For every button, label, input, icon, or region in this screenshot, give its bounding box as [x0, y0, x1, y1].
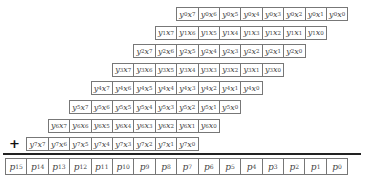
partial-product-cell: y0x2: [283, 7, 305, 21]
partial-product-cell: y1x1: [283, 26, 305, 40]
partial-product-cell: y5x3: [155, 100, 177, 114]
partial-product-cell: y6x7: [48, 119, 70, 133]
partial-product-cell: y6x6: [69, 119, 91, 133]
partial-product-cell: y4x7: [91, 81, 113, 95]
partial-product-cell: y4x1: [219, 81, 241, 95]
partial-product-row: y2x7y2x6y2x5y2x4y2x3y2x2y2x1y2x0: [133, 44, 304, 58]
partial-product-row: y3x7y3x6y3x5y3x4y3x3y3x2y3x1y3x0: [112, 63, 283, 77]
partial-product-cell: y6x1: [176, 119, 198, 133]
partial-product-cell: y4x5: [133, 81, 155, 95]
partial-product-cell: y2x1: [262, 44, 284, 58]
partial-product-cell: y0x5: [219, 7, 241, 21]
partial-product-cell: y3x7: [112, 63, 134, 77]
partial-product-cell: y0x3: [262, 7, 284, 21]
partial-product-cell: y2x0: [283, 44, 305, 58]
partial-product-cell: y4x4: [155, 81, 177, 95]
product-bit-cell: p13: [48, 158, 70, 175]
product-bit-cell: p14: [26, 158, 48, 175]
partial-product-cell: y3x3: [198, 63, 220, 77]
partial-product-cell: y7x3: [112, 137, 134, 151]
partial-product-cell: y1x3: [240, 26, 262, 40]
product-bit-cell: p9: [133, 158, 155, 175]
product-bit-cell: p3: [262, 158, 284, 175]
product-bit-cell: p8: [155, 158, 177, 175]
product-bit-cell: p11: [91, 158, 113, 175]
sum-rule: [3, 153, 361, 155]
product-bit-cell: p15: [5, 158, 27, 175]
partial-product-cell: y2x3: [219, 44, 241, 58]
partial-product-cell: y3x2: [219, 63, 241, 77]
product-bit-cell: p10: [112, 158, 134, 175]
partial-product-row: y6x7y6x6y6x5y6x4y6x3y6x2y6x1y6x0: [48, 119, 219, 133]
partial-product-cell: y4x0: [240, 81, 262, 95]
product-bit-cell: p2: [283, 158, 305, 175]
partial-product-cell: y5x6: [91, 100, 113, 114]
partial-product-cell: y2x6: [155, 44, 177, 58]
product-row: p15p14p13p12p11p10p9p8p7p6p5p4p3p2p1p0: [5, 158, 347, 175]
product-bit-cell: p1: [304, 158, 326, 175]
partial-product-cell: y5x0: [219, 100, 241, 114]
partial-product-cell: y7x1: [155, 137, 177, 151]
partial-product-row: y0x7y0x6y0x5y0x4y0x3y0x2y0x1y0x0: [176, 7, 347, 21]
partial-product-cell: y0x1: [305, 7, 327, 21]
partial-product-cell: y0x6: [198, 7, 220, 21]
partial-product-cell: y2x7: [133, 44, 155, 58]
product-bit-cell: p6: [198, 158, 220, 175]
partial-product-cell: y0x4: [240, 7, 262, 21]
product-bit-cell: p4: [240, 158, 262, 175]
partial-product-cell: y7x5: [69, 137, 91, 151]
partial-product-cell: y4x2: [198, 81, 220, 95]
partial-product-cell: y2x2: [240, 44, 262, 58]
partial-product-cell: y7x7: [26, 137, 48, 151]
partial-product-cell: y1x2: [262, 26, 284, 40]
plus-sign: +: [9, 136, 20, 151]
partial-product-cell: y7x4: [91, 137, 113, 151]
partial-product-cell: y6x0: [198, 119, 220, 133]
partial-product-cell: y6x2: [155, 119, 177, 133]
partial-product-cell: y1x5: [198, 26, 220, 40]
partial-product-row: y1x7y1x6y1x5y1x4y1x3y1x2y1x1y1x0: [155, 26, 326, 40]
partial-product-cell: y5x5: [112, 100, 134, 114]
partial-product-cell: y7x6: [48, 137, 70, 151]
partial-product-cell: y3x6: [133, 63, 155, 77]
partial-product-cell: y1x6: [176, 26, 198, 40]
partial-product-cell: y2x5: [176, 44, 198, 58]
partial-product-cell: y3x0: [262, 63, 284, 77]
product-bit-cell: p5: [219, 158, 241, 175]
partial-product-cell: y5x1: [198, 100, 220, 114]
partial-product-cell: y0x7: [176, 7, 198, 21]
partial-product-cell: y1x0: [305, 26, 327, 40]
partial-product-cell: y5x2: [176, 100, 198, 114]
partial-product-cell: y3x4: [176, 63, 198, 77]
partial-product-cell: y2x4: [198, 44, 220, 58]
partial-product-cell: y5x7: [69, 100, 91, 114]
partial-product-cell: y1x4: [219, 26, 241, 40]
partial-product-cell: y0x0: [326, 7, 348, 21]
product-bit-cell: p0: [326, 158, 348, 175]
partial-product-cell: y3x5: [155, 63, 177, 77]
partial-product-cell: y4x6: [112, 81, 134, 95]
partial-product-cell: y6x3: [133, 119, 155, 133]
partial-product-row: y4x7y4x6y4x5y4x4y4x3y4x2y4x1y4x0: [91, 81, 262, 95]
partial-product-cell: y6x4: [112, 119, 134, 133]
partial-product-cell: y6x5: [91, 119, 113, 133]
partial-product-row: y7x7y7x6y7x5y7x4y7x3y7x2y7x1y7x0: [26, 137, 197, 151]
partial-product-cell: y1x7: [155, 26, 177, 40]
product-bit-cell: p12: [69, 158, 91, 175]
partial-product-cell: y3x1: [240, 63, 262, 77]
partial-product-cell: y5x4: [133, 100, 155, 114]
partial-product-row: y5x7y5x6y5x5y5x4y5x3y5x2y5x1y5x0: [69, 100, 240, 114]
partial-product-cell: y7x0: [176, 137, 198, 151]
product-bit-cell: p7: [176, 158, 198, 175]
partial-product-cell: y7x2: [133, 137, 155, 151]
partial-product-cell: y4x3: [176, 81, 198, 95]
